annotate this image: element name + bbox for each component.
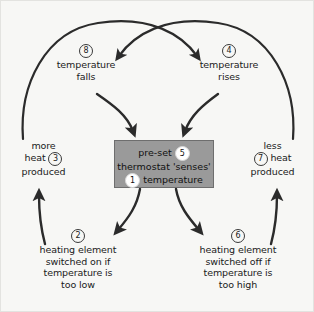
step-badge-4: 4 [222,44,236,58]
step-badge-8: 8 [79,44,93,58]
node-4-line2: rises [184,71,274,83]
node-4-line1: temperature [184,59,274,71]
node-temperature-rises: 4 temperature rises [184,44,274,82]
node-temperature-falls: 8 temperature falls [41,44,131,82]
node-3-line1: more [1,140,86,152]
arrow-temperature-falls-to-thermostat [97,94,133,131]
step-badge-3: 3 [48,152,62,166]
arrow-temperature-rises-to-thermostat [185,94,218,131]
node-6-badge-row: 6 [168,229,308,243]
step-badge-5: 5 [175,146,190,161]
node-7-line2: heat [270,152,291,163]
node-more-heat-produced: more heat 3 produced [1,140,86,177]
node-2-line2: switched on if [8,256,148,268]
node-8-line1: temperature [41,59,131,71]
step-badge-2: 2 [71,229,85,243]
thermostat-line3: temperature [143,174,203,185]
node-6-line2: switched off if [168,256,308,268]
node-2-line4: too low [8,279,148,291]
node-8-line2: falls [41,71,131,83]
node-7-line3: produced [230,166,314,178]
node-2-line1: heating element [8,244,148,256]
node-heating-element-on: 2 heating element switched on if tempera… [8,229,148,290]
node-less-heat-produced: less 7 heat produced [230,140,314,177]
node-3-line2: heat [25,152,46,163]
thermostat-line2: thermostat 'senses' [115,161,213,173]
node-4-badge-row: 4 [184,44,274,58]
node-6-line1: heating element [168,244,308,256]
arrow-thermostat-to-heater-on [118,189,140,230]
node-6-line4: too high [168,279,308,291]
step-badge-6: 6 [231,229,245,243]
thermostat-line3-row: 1 temperature [115,173,213,188]
node-3-line2-row: heat 3 [25,152,63,163]
diagram-canvas: 8 temperature falls 4 temperature rises … [0,0,314,312]
node-2-line3: temperature is [8,267,148,279]
node-2-badge-row: 2 [8,229,148,243]
step-badge-1: 1 [125,173,140,188]
thermostat-line1-row: pre-set 5 [115,146,213,161]
node-8-badge-row: 8 [41,44,131,58]
thermostat-line1: pre-set [138,147,172,158]
thermostat-box: pre-set 5 thermostat 'senses' 1 temperat… [114,140,214,188]
node-7-line2-row: 7 heat [254,152,292,163]
arrow-thermostat-to-heater-off [176,189,199,230]
node-7-line1: less [230,140,314,152]
node-3-line3: produced [1,166,86,178]
node-6-line3: temperature is [168,267,308,279]
node-heating-element-off: 6 heating element switched off if temper… [168,229,308,290]
step-badge-7: 7 [254,152,268,166]
